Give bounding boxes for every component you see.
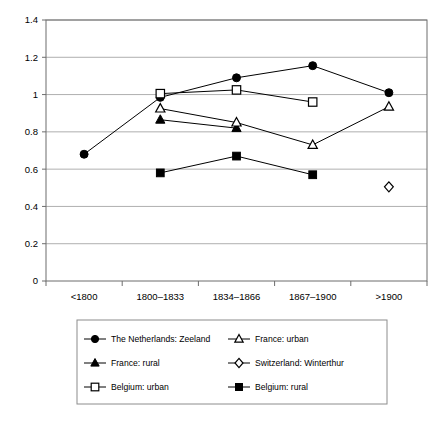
x-axis-tick-label: 1800–1833 [137, 291, 185, 302]
open-square-marker [309, 98, 317, 106]
open-triangle-marker [384, 102, 393, 110]
legend-label: France: rural [111, 358, 160, 368]
open-diamond-marker [384, 182, 393, 192]
filled-square-marker [156, 169, 164, 177]
open-square-marker-legend [91, 383, 99, 391]
filled-square-marker [309, 171, 317, 179]
markers-france-rural [156, 115, 241, 132]
chart-figure: 00.20.40.60.811.21.4 <18001800–18331834–… [0, 0, 443, 424]
filled-triangle-marker [156, 115, 165, 123]
filled-circle-marker [309, 62, 317, 70]
y-axis-tick-label: 1.2 [25, 52, 38, 63]
plot-area-border [46, 20, 427, 281]
data-series-layer [80, 62, 393, 192]
open-triangle-marker [156, 104, 165, 112]
y-axis-tick-label: 1.4 [25, 14, 38, 25]
legend-label: The Netherlands: Zeeland [111, 334, 211, 344]
filled-circle-marker [233, 74, 241, 82]
x-axis-tick-labels: <18001800–18331834–18661867–1900>1900 [46, 281, 427, 302]
markers-the-netherlands-zeeland [80, 62, 393, 159]
filled-circle-marker [80, 150, 88, 158]
series-france-urban [160, 107, 389, 145]
y-axis-tick-labels: 00.20.40.60.811.21.4 [25, 14, 46, 286]
legend-label: Belgium: rural [255, 382, 308, 392]
series-line [160, 120, 236, 128]
y-axis-tick-label: 0.6 [25, 164, 38, 175]
x-axis-tick-label: 1867–1900 [289, 291, 337, 302]
chart-legend: The Netherlands: ZeelandFrance: urbanFra… [77, 320, 387, 404]
axes [46, 20, 427, 281]
markers-france-urban [156, 102, 394, 149]
series-line [160, 107, 389, 145]
open-square-marker [156, 89, 164, 97]
y-axis-tick-label: 0.2 [25, 238, 38, 249]
legend-label: Switzerland: Winterthur [255, 358, 344, 368]
legend-item-france-rural[interactable]: France: rural [84, 358, 160, 368]
legend-label: Belgium: urban [111, 382, 169, 392]
filled-circle-marker-legend [91, 335, 98, 342]
y-axis-tick-label: 0.4 [25, 201, 38, 212]
x-axis-tick-label: >1900 [376, 291, 403, 302]
x-axis-tick-label: <1800 [71, 291, 98, 302]
line-chart: 00.20.40.60.811.21.4 <18001800–18331834–… [0, 0, 443, 424]
filled-square-marker [233, 152, 241, 160]
legend-item-belgium-rural[interactable]: Belgium: rural [228, 382, 308, 392]
x-axis-tick-label: 1834–1866 [213, 291, 261, 302]
y-axis-tick-label: 0 [33, 275, 38, 286]
filled-square-marker-legend [236, 384, 243, 391]
markers-belgium-rural [156, 152, 316, 178]
y-axis-tick-label: 1 [33, 89, 38, 100]
legend-item-france-urban[interactable]: France: urban [228, 334, 309, 344]
legend-label: France: urban [255, 334, 309, 344]
legend-item-belgium-urban[interactable]: Belgium: urban [84, 382, 169, 392]
open-square-marker [232, 86, 240, 94]
filled-circle-marker [385, 89, 393, 97]
series-france-rural [160, 120, 236, 128]
y-axis-tick-label: 0.8 [25, 126, 38, 137]
markers-belgium-urban [156, 86, 317, 107]
markers-switzerland-winterthur [384, 182, 393, 192]
